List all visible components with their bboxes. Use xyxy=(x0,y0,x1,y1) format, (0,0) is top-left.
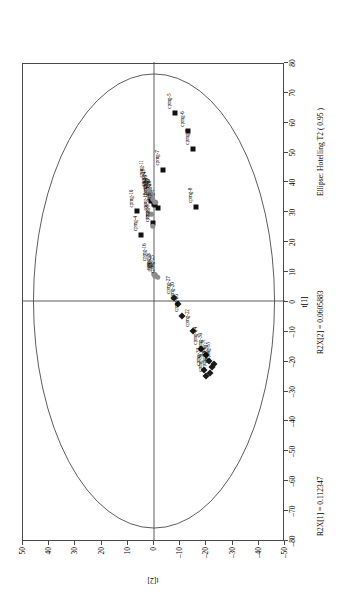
data-point-label: cpmg-29 xyxy=(140,169,146,187)
data-point xyxy=(172,110,177,115)
x-tick-mark xyxy=(284,152,288,153)
x-tick-mark xyxy=(284,301,288,302)
x-tick-label: 10 xyxy=(288,268,297,275)
y-tick-mark xyxy=(258,541,259,545)
data-point xyxy=(191,146,196,151)
x-tick-label: –60 xyxy=(288,476,297,487)
x-tick-label: –20 xyxy=(288,356,297,367)
data-point xyxy=(150,224,156,230)
x-tick-label: 70 xyxy=(288,89,297,96)
x-axis-label: t[1] xyxy=(300,297,309,308)
y-tick-mark xyxy=(205,541,206,545)
data-point-label: cpmg-36 xyxy=(197,354,203,372)
y-tick-label: 0 xyxy=(149,547,158,551)
data-point-label: cpmg-22 xyxy=(184,309,190,327)
ellipse-label: Ellipse: Hotelling T2 ( 0.95 ) xyxy=(316,108,325,196)
pls-da-scores-plot: 123 cpmg-bs-0.001.M7 ( PLS-DA ) t[Comp.1… xyxy=(0,0,358,604)
x-tick-label: 60 xyxy=(288,119,297,126)
x-tick-mark xyxy=(284,480,288,481)
x-tick-mark xyxy=(284,361,288,362)
x-tick-label: –50 xyxy=(288,446,297,457)
r2x2-label: R2X[2] = 0.0605883 xyxy=(316,290,325,354)
x-tick-label: 20 xyxy=(288,239,297,246)
x-tick-mark xyxy=(284,241,288,242)
x-tick-mark xyxy=(284,421,288,422)
data-point-label: cpmg-25 xyxy=(149,255,155,273)
x-tick-label: –80 xyxy=(288,535,297,546)
y-tick-label: 30 xyxy=(70,547,79,554)
x-tick-mark xyxy=(284,271,288,272)
y-tick-label: 20 xyxy=(96,547,105,554)
data-point xyxy=(161,167,166,172)
y-tick-mark xyxy=(153,541,154,545)
y-tick-label: –30 xyxy=(227,547,236,558)
data-point xyxy=(153,200,159,206)
y-tick-label: 10 xyxy=(122,547,131,554)
x-tick-label: 80 xyxy=(288,59,297,66)
r2x1-label: R2X[1] = 0.112347 xyxy=(316,477,325,536)
data-point xyxy=(193,204,198,209)
x-tick-label: 30 xyxy=(288,209,297,216)
y-tick-mark xyxy=(232,541,233,545)
data-point-label: cpmg-7 xyxy=(154,150,160,165)
y-tick-mark xyxy=(179,541,180,545)
x-tick-mark xyxy=(284,211,288,212)
y-axis-label: t[2] xyxy=(148,576,159,585)
data-point xyxy=(134,209,139,214)
data-point-label: cpmg-5 xyxy=(166,94,172,109)
y-tick-label: 40 xyxy=(44,547,53,554)
data-point-label: cpmg-19 xyxy=(144,205,150,223)
x-tick-mark xyxy=(284,62,288,63)
x-tick-label: 40 xyxy=(288,179,297,186)
x-tick-mark xyxy=(284,182,288,183)
data-point-label: cpmg-8 xyxy=(187,188,193,203)
y-tick-label: –40 xyxy=(253,547,262,558)
plot-frame: cpmg-1cpmg-2cpmg-3cpmg-4cpmg-5cpmg-6cpmg… xyxy=(22,63,284,541)
y-tick-label: –20 xyxy=(201,547,210,558)
y-tick-mark xyxy=(284,541,285,545)
data-point-label: cpmg-35 xyxy=(205,342,211,360)
y-tick-mark xyxy=(101,541,102,545)
y-tick-label: –10 xyxy=(175,547,184,558)
y-tick-mark xyxy=(127,541,128,545)
x-tick-label: 0 xyxy=(288,300,297,304)
data-point xyxy=(138,233,143,238)
data-point-label: cpmg-4 xyxy=(132,216,138,231)
data-point xyxy=(186,128,191,133)
x-tick-label: –30 xyxy=(288,386,297,397)
y-tick-mark xyxy=(74,541,75,545)
x-tick-label: –10 xyxy=(288,326,297,337)
y-tick-mark xyxy=(22,541,23,545)
x-tick-mark xyxy=(284,122,288,123)
data-point-label: cpmg-27 xyxy=(165,276,171,294)
x-tick-mark xyxy=(284,510,288,511)
y-tick-label: –50 xyxy=(280,547,289,558)
x-tick-label: –70 xyxy=(288,506,297,517)
x-tick-mark xyxy=(284,391,288,392)
data-point-label: cpmg-6 xyxy=(179,111,185,126)
data-point xyxy=(146,188,152,194)
y-tick-label: 50 xyxy=(18,547,27,554)
plot-area: cpmg-1cpmg-2cpmg-3cpmg-4cpmg-5cpmg-6cpmg… xyxy=(23,64,283,540)
x-tick-label: –40 xyxy=(288,416,297,427)
x-tick-label: 50 xyxy=(288,149,297,156)
x-tick-mark xyxy=(284,450,288,451)
y-tick-mark xyxy=(48,541,49,545)
x-tick-mark xyxy=(284,92,288,93)
data-point xyxy=(155,274,161,280)
x-tick-mark xyxy=(284,331,288,332)
data-point-label: cpmg-10 xyxy=(128,190,134,208)
